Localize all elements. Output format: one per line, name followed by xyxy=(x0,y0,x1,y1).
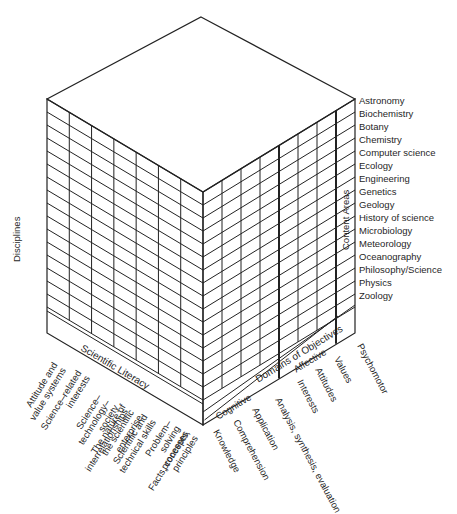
content-area-label: Astronomy xyxy=(359,96,404,106)
content-area-label: Computer science xyxy=(359,148,436,158)
content-area-label: Meteorology xyxy=(359,239,411,249)
content-area-label: Zoology xyxy=(359,291,393,301)
content-area-label: History of science xyxy=(359,213,434,223)
content-area-label: Philosophy/Science xyxy=(359,265,442,275)
content-area-label: Microbiology xyxy=(359,226,412,236)
content-area-label: Ecology xyxy=(359,161,393,171)
content-area-label: Oceanography xyxy=(359,252,421,262)
content-area-label: Genetics xyxy=(359,187,397,197)
content-area-label: Botany xyxy=(359,122,389,132)
content-area-label: Engineering xyxy=(359,174,410,184)
disciplines-axis-label: Disciplines xyxy=(12,217,22,262)
content-area-label: Geology xyxy=(359,200,394,210)
content-area-label: Physics xyxy=(359,278,392,288)
content-area-label: Biochemistry xyxy=(359,109,413,119)
content-area-label: Chemistry xyxy=(359,135,402,145)
right-face-grid xyxy=(203,111,355,420)
content-areas-axis-label: Content Areas xyxy=(341,190,351,250)
left-face-grid xyxy=(47,112,203,404)
